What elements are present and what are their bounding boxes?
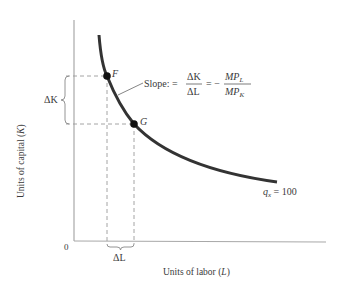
svg-text:Slope: =: Slope: =: [144, 78, 178, 89]
point-f-label: F: [111, 68, 119, 79]
svg-text:ΔK: ΔK: [187, 71, 201, 82]
delta-k-brace: [61, 76, 69, 124]
isoquant-diagram: F G Slope: = ΔK ΔL = − MPL MPK ΔK ΔL 0 q…: [0, 0, 343, 292]
slope-leader-line: [118, 83, 143, 95]
isoquant-curve: [99, 35, 277, 182]
x-axis: [74, 241, 326, 242]
guide-lines: [66, 76, 134, 244]
delta-l-brace: [107, 244, 134, 250]
delta-k-label: ΔK: [44, 94, 58, 105]
y-axis-label: Units of capital (K): [16, 124, 27, 198]
slope-formula: Slope: = ΔK ΔL = − MPL MPK: [144, 71, 251, 99]
point-f: [103, 72, 111, 80]
svg-text:= −: = −: [206, 78, 220, 89]
svg-text:MPL: MPL: [224, 71, 243, 84]
point-g: [130, 120, 138, 128]
origin-label: 0: [64, 242, 69, 252]
svg-text:ΔL: ΔL: [187, 86, 200, 97]
point-g-label: G: [140, 116, 147, 127]
x-axis-label: Units of labor (L): [163, 267, 230, 278]
svg-text:MPK: MPK: [224, 86, 244, 99]
delta-l-label: ΔL: [113, 252, 126, 263]
curve-label: qx = 100: [263, 186, 297, 199]
